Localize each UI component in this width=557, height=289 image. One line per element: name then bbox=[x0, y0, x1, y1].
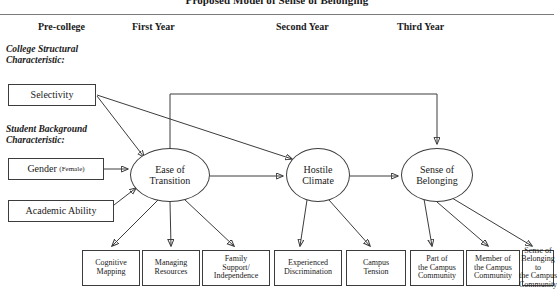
box-managing-resources-line-2: Resources bbox=[155, 268, 188, 277]
box-family-support-independence[interactable]: FamilySupport/Independence bbox=[202, 250, 270, 286]
box-sense-of-belonging-to-the-campus-community-line-4: Community bbox=[519, 281, 557, 289]
box-selectivity-label: Selectivity bbox=[31, 90, 74, 101]
ellipse-sense-line-1: Sense of bbox=[416, 164, 458, 175]
ellipse-ease-line-1: Ease of bbox=[150, 164, 191, 175]
box-gender-sublabel: (Female) bbox=[59, 164, 84, 175]
box-part-of-the-campus-community-line-3: Community bbox=[418, 272, 456, 281]
arrow-sense-to-sense-of-belonging-community bbox=[452, 198, 532, 246]
arrow-selectivity-to-hostile bbox=[97, 95, 292, 159]
box-experienced-discrimination[interactable]: ExperiencedDiscrimination bbox=[274, 250, 342, 286]
box-academic-ability-label: Academic Ability bbox=[26, 206, 97, 217]
box-campus-tension[interactable]: CampusTension bbox=[346, 250, 406, 286]
arrow-sense-to-part-of-campus bbox=[424, 199, 432, 246]
arrow-selectivity-to-ease bbox=[97, 96, 144, 157]
box-academic-ability[interactable]: Academic Ability bbox=[8, 200, 114, 222]
box-experienced-discrimination-line-2: Discrimination bbox=[284, 268, 332, 277]
ellipse-sense-of-belonging[interactable]: Sense of Belonging bbox=[401, 148, 473, 202]
ellipse-hostile-line-1: Hostile bbox=[302, 164, 334, 175]
box-campus-tension-line-2: Tension bbox=[363, 268, 389, 277]
box-family-support-independence-line-3: Independence bbox=[214, 272, 258, 281]
arrow-hostile-to-campus-tension bbox=[329, 200, 370, 246]
box-cognitive-mapping[interactable]: CognitiveMapping bbox=[82, 250, 140, 286]
box-sense-of-belonging-to-the-campus-community-line-2: Belonging to bbox=[519, 255, 557, 272]
arrow-sense-to-member-of-campus bbox=[437, 202, 488, 246]
box-selectivity[interactable]: Selectivity bbox=[8, 84, 96, 106]
box-cognitive-mapping-line-2: Mapping bbox=[95, 268, 127, 277]
box-part-of-the-campus-community[interactable]: Part ofthe CampusCommunity bbox=[410, 250, 464, 286]
box-managing-resources[interactable]: ManagingResources bbox=[142, 250, 200, 286]
box-gender-label: Gender bbox=[27, 164, 56, 175]
box-member-of-the-campus-community-line-3: Community bbox=[474, 272, 512, 281]
arrow-ease-to-managing-resources bbox=[170, 202, 171, 246]
arrow-ease-to-family-support bbox=[184, 199, 234, 246]
box-sense-of-belonging-to-the-campus-community[interactable]: Sense ofBelonging tothe CampusCommunity bbox=[522, 250, 554, 286]
ellipse-sense-line-2: Belonging bbox=[416, 175, 458, 186]
ellipse-hostile-climate[interactable]: Hostile Climate bbox=[286, 148, 350, 202]
arrow-hostile-to-experienced-discrimination bbox=[300, 200, 307, 246]
arrow-ease-to-sense bbox=[170, 94, 437, 150]
arrow-academic-ability-to-ease bbox=[114, 188, 136, 205]
ellipse-ease-of-transition[interactable]: Ease of Transition bbox=[130, 148, 210, 202]
box-gender[interactable]: Gender (Female) bbox=[8, 158, 104, 180]
ellipse-hostile-line-2: Climate bbox=[302, 175, 334, 186]
arrow-ease-to-cognitive-mapping bbox=[112, 200, 158, 246]
ellipse-ease-line-2: Transition bbox=[150, 175, 191, 186]
box-member-of-the-campus-community[interactable]: Member ofthe CampusCommunity bbox=[466, 250, 520, 286]
